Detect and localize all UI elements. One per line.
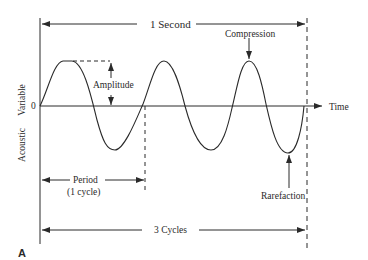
time-label: Time [329, 102, 349, 112]
period-cycle-label: (1 cycle) [67, 187, 101, 198]
rarefaction-label: Rarefaction [261, 191, 306, 201]
three-cycles-label: 3 Cycles [154, 225, 187, 235]
one-second-label: 1 Second [150, 18, 191, 30]
amplitude-label: Amplitude [93, 80, 134, 90]
origin-label: 0 [31, 101, 36, 111]
y-axis-label-acoustic: Acoustic [17, 128, 27, 162]
period-label: Period [73, 175, 98, 185]
sound-waveform [40, 61, 304, 153]
sound-wave-diagram: 1 Second Compression Amplitude Time 0 Ra… [0, 0, 368, 260]
panel-label: A [18, 247, 26, 259]
compression-label: Compression [225, 29, 275, 39]
y-axis-label-variable: Variable [17, 84, 27, 116]
